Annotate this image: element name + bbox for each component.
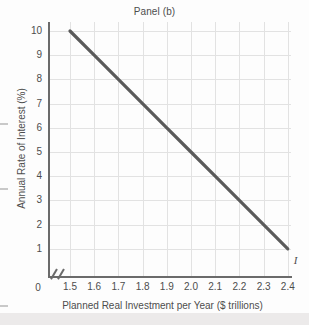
y-tick-label: 5 bbox=[18, 147, 42, 157]
x-axis-line bbox=[49, 276, 292, 278]
investment-demand-chart: Panel (b) Annual Rate of Interest (%) 10… bbox=[0, 0, 309, 325]
y-tick-label: 1 bbox=[18, 244, 42, 254]
origin-label: 0 bbox=[30, 282, 46, 293]
curve-label-I: I bbox=[294, 254, 298, 266]
y-tick-label: 4 bbox=[18, 171, 42, 181]
scan-band bbox=[0, 313, 309, 325]
y-tick-label: 10 bbox=[18, 26, 42, 36]
y-tick-label: 2 bbox=[18, 220, 42, 230]
x-tick-label: 2.4 bbox=[273, 282, 303, 292]
y-tick-label: 8 bbox=[18, 74, 42, 84]
scan-artifact-top bbox=[0, 123, 8, 125]
y-tick-label: 9 bbox=[18, 50, 42, 60]
y-tick-label: 3 bbox=[18, 195, 42, 205]
investment-demand-line bbox=[49, 22, 291, 276]
scan-artifact-mid bbox=[0, 188, 8, 190]
scan-artifact-bottom bbox=[0, 305, 8, 307]
y-tick-label: 6 bbox=[18, 123, 42, 133]
y-tick-label: 7 bbox=[18, 99, 42, 109]
x-axis-label: Planned Real Investment per Year ($ tril… bbox=[25, 300, 300, 311]
page-title: Panel (b) bbox=[0, 6, 309, 17]
